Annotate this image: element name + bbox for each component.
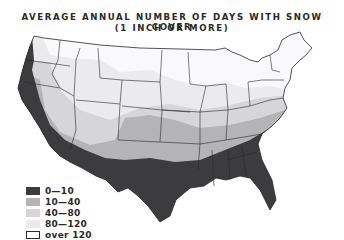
legend-item-80-120: 80—120: [26, 218, 92, 229]
legend-swatch: [26, 231, 40, 239]
legend-swatch: [26, 209, 40, 217]
legend-swatch: [26, 198, 40, 206]
legend-label: over 120: [45, 230, 92, 240]
legend-label: 80—120: [45, 219, 87, 229]
legend-item-0-10: 0—10: [26, 185, 92, 196]
legend: 0—10 10—40 40—80 80—120 over 120: [26, 185, 92, 239]
legend-label: 10—40: [45, 197, 81, 207]
legend-swatch: [26, 220, 40, 228]
legend-item-40-80: 40—80: [26, 207, 92, 218]
legend-label: 0—10: [45, 186, 74, 196]
legend-label: 40—80: [45, 208, 81, 218]
legend-swatch: [26, 187, 40, 195]
legend-item-10-40: 10—40: [26, 196, 92, 207]
legend-item-over-120: over 120: [26, 229, 92, 239]
